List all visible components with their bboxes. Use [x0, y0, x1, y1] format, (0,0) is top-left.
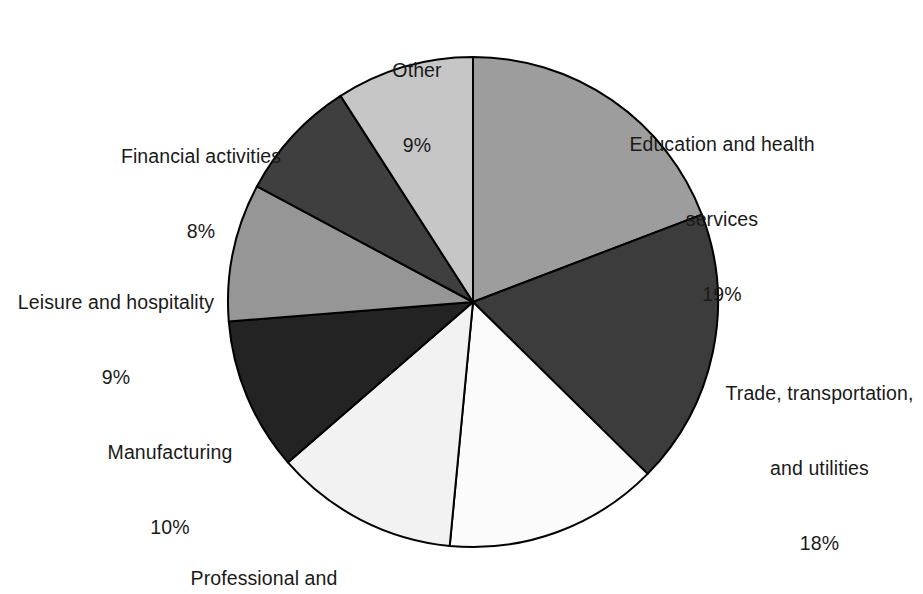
slice-label-other-value: 9%	[352, 133, 482, 158]
slice-label-professional-and-business-services-name-1: Professional and	[160, 566, 368, 591]
slice-label-other-name: Other	[352, 58, 482, 83]
slice-label-manufacturing-name: Manufacturing	[96, 440, 244, 465]
slice-label-leisure-and-hospitality-value: 9%	[6, 365, 226, 390]
slice-label-trade-transportation-and-utilities-name-2: and utilities	[716, 456, 923, 481]
slice-label-trade-transportation-and-utilities-name-1: Trade, transportation,	[716, 381, 923, 406]
slice-label-trade-transportation-and-utilities: Trade, transportation, and utilities 18%	[716, 331, 923, 594]
slice-label-education-and-health-services-value: 19%	[614, 282, 830, 307]
slice-label-education-and-health-services: Education and health services 19%	[614, 82, 830, 357]
slice-label-education-and-health-services-name-1: Education and health	[614, 132, 830, 157]
slice-label-other: Other 9%	[352, 8, 482, 208]
slice-label-education-and-health-services-name-2: services	[614, 207, 830, 232]
slice-label-professional-and-business-services: Professional and business services 12%	[160, 516, 368, 594]
pie-chart-figure: Other 9% Financial activities 8% Leisure…	[0, 0, 923, 594]
slice-label-trade-transportation-and-utilities-value: 18%	[716, 531, 923, 556]
slice-label-financial-activities-name: Financial activities	[106, 144, 296, 169]
slice-label-government: Government 14%	[562, 541, 732, 594]
slice-label-leisure-and-hospitality-name: Leisure and hospitality	[6, 290, 226, 315]
